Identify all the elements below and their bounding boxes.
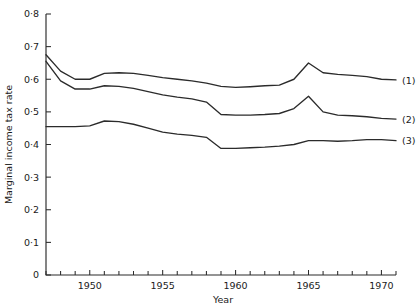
y-tick-label-4: 0·4	[24, 139, 39, 150]
x-tick-label-4: 1970	[369, 280, 393, 291]
y-tick-label-6: 0·6	[24, 74, 39, 85]
y-tick-label-3: 0·3	[24, 172, 39, 183]
x-tick-label-0: 1950	[78, 280, 102, 291]
y-tick-label-7: 0·7	[24, 41, 39, 52]
x-axis-title: Year	[212, 294, 233, 305]
series-label-1: (1)	[402, 75, 415, 86]
series-end-labels: (1)(2)(3)	[402, 75, 415, 147]
y-tick-label-8: 0·8	[24, 8, 39, 19]
y-axis-title: Marginal income tax rate	[3, 85, 14, 204]
y-tick-label-5: 0·5	[24, 106, 39, 117]
series-line-1	[46, 55, 396, 88]
series-label-3: (3)	[402, 135, 415, 146]
x-tick-labels: 19501955196019651970	[78, 280, 394, 291]
chart-container: 00·10·20·30·40·50·60·70·8 19501955196019…	[0, 0, 419, 307]
x-tick-label-2: 1960	[223, 280, 247, 291]
axis-lines	[46, 14, 396, 275]
series-lines	[46, 55, 396, 149]
line-chart: 00·10·20·30·40·50·60·70·8 19501955196019…	[0, 0, 419, 307]
y-tick-label-0: 0	[33, 269, 39, 280]
series-label-2: (2)	[402, 114, 415, 125]
y-tick-label-1: 0·1	[24, 237, 39, 248]
axis-ticks	[46, 14, 396, 275]
chart-axes	[46, 14, 396, 275]
y-tick-labels: 00·10·20·30·40·50·60·70·8	[24, 8, 39, 280]
series-line-3	[46, 121, 396, 148]
y-tick-label-2: 0·2	[24, 204, 39, 215]
x-tick-label-3: 1965	[296, 280, 320, 291]
x-tick-label-1: 1955	[151, 280, 175, 291]
series-line-2	[46, 61, 396, 119]
